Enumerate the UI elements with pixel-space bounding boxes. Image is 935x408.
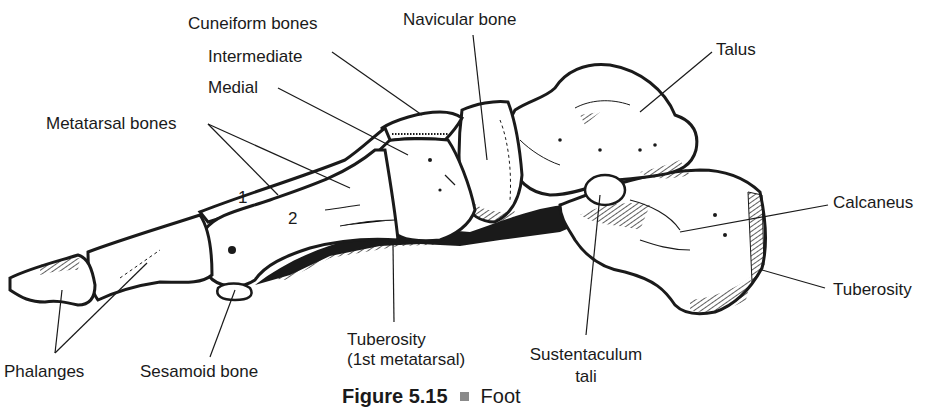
- second-metatarsal-number: 2: [288, 209, 297, 229]
- label-phalanges: Phalanges: [4, 362, 84, 382]
- figure-title: Foot: [481, 385, 521, 407]
- label-sustentaculum-line1: Sustentaculum: [516, 344, 656, 366]
- label-intermediate: Intermediate: [208, 47, 303, 67]
- label-tuberosity-1st-line1: Tuberosity: [347, 330, 465, 350]
- first-metatarsal-number: 1: [238, 188, 247, 208]
- figure-number: Figure 5.15: [342, 385, 448, 407]
- label-cuneiform-bones: Cuneiform bones: [188, 14, 317, 34]
- label-calcaneus: Calcaneus: [833, 193, 913, 213]
- label-sustentaculum-line2: tali: [516, 366, 656, 388]
- figure-caption: Figure 5.15Foot: [342, 384, 521, 408]
- label-tuberosity-1st-metatarsal: Tuberosity (1st metatarsal): [347, 330, 465, 370]
- label-tuberosity-calcaneus: Tuberosity: [833, 280, 912, 300]
- label-navicular-bone: Navicular bone: [403, 10, 516, 30]
- label-sesamoid-bone: Sesamoid bone: [140, 362, 258, 382]
- label-metatarsal-bones: Metatarsal bones: [46, 114, 176, 134]
- label-tuberosity-1st-line2: (1st metatarsal): [347, 350, 465, 370]
- square-bullet-icon: [460, 392, 469, 401]
- label-sustentaculum-tali: Sustentaculum tali: [516, 344, 656, 388]
- label-medial: Medial: [208, 78, 258, 98]
- label-talus: Talus: [716, 40, 756, 60]
